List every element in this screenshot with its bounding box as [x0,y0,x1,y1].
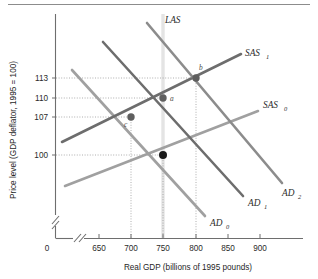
ad0-label-group: AD 0 [209,218,230,230]
point-c-marker [127,113,134,120]
ad0-label-subscript: 0 [226,223,230,230]
ad1-curve [103,42,243,196]
sas1-label: SAS [245,48,260,58]
point-b-label: b [199,63,203,72]
point-c-label: c [124,120,128,129]
x-tick-label-800: 800 [189,244,203,253]
y-tick-label-107: 107 [34,113,48,122]
x-tick-label-700: 700 [124,244,138,253]
x-tick-label-750: 750 [156,244,170,253]
x-axis-title: Real GDP (billions of 1995 pounds) [124,263,252,272]
point-b-marker [192,74,199,81]
ad0-label: AD [209,218,223,228]
x-tick-label-850: 850 [221,244,235,253]
ad1-label: AD [247,198,261,208]
y-tick-label-100: 100 [34,151,48,160]
sas0-label: SAS [263,100,278,110]
sas0-label-subscript: 0 [284,105,288,112]
ad-as-chart: b a c 113 110 107 100 0 650 700 750 800 … [0,0,318,279]
x-tick-label-650: 650 [92,244,106,253]
point-a-marker [159,94,166,101]
ad1-label-group: AD 1 [247,198,267,210]
ad2-label: AD [281,188,295,198]
point-a-label: a [170,94,174,103]
initial-equilibrium-marker [159,151,167,159]
y-tick-label-113: 113 [35,74,48,83]
y-tick-label-110: 110 [35,94,48,103]
x-tick-label-900: 900 [253,244,267,253]
ad0-curve [72,70,205,216]
las-label: LAS [164,15,181,25]
ad2-label-group: AD 2 [281,188,302,200]
ad2-curve [147,23,282,183]
sas0-label-group: SAS 0 [263,100,288,112]
ad1-label-subscript: 1 [264,203,267,210]
sas1-label-subscript: 1 [266,53,269,60]
sas1-label-group: SAS 1 [245,48,269,60]
x-tick-label-0: 0 [45,244,50,253]
ad2-label-subscript: 2 [298,193,302,200]
y-axis-title: Price level (GDP deflator, 1995 = 100) [9,61,18,199]
